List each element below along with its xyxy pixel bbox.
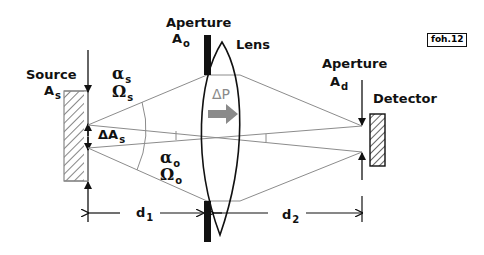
delta-p-arrow <box>208 104 238 124</box>
aperture-d-label: Aperture <box>322 57 387 70</box>
lens-label: Lens <box>236 38 270 51</box>
detector-label: Detector <box>373 92 437 105</box>
detector-block <box>370 114 385 166</box>
delta-as-label: ΔAs <box>98 128 125 141</box>
omega-o-label: Ωo <box>160 167 182 183</box>
aperture-o-label: Aperture <box>166 16 231 29</box>
delta-p-label: ΔP <box>212 87 230 101</box>
d2-label: d2 <box>282 208 299 221</box>
aperture-d-symbol: Ad <box>330 75 348 88</box>
d1-label: d1 <box>136 206 153 219</box>
source-label: Source <box>26 68 76 81</box>
alpha-s-label: αs <box>112 66 131 82</box>
aperture-o-symbol: Ao <box>172 32 190 45</box>
omega-s-label: Ωs <box>112 84 133 100</box>
source-block <box>64 91 89 181</box>
alpha-o-label: αo <box>160 150 180 166</box>
figure-tag: foh.12 <box>427 33 467 47</box>
source-symbol: As <box>44 84 61 97</box>
aperture-o-bottom <box>204 201 211 242</box>
